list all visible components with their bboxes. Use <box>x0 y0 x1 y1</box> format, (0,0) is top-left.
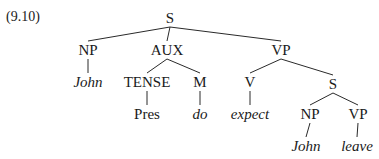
tree-edges <box>0 0 379 159</box>
tree-node-vp-1: VP <box>271 43 290 58</box>
tree-node-np-1: NP <box>78 43 97 58</box>
tree-node-v: V <box>245 75 256 90</box>
tree-node-expect: expect <box>231 107 269 122</box>
tree-node-john-2: John <box>291 139 320 154</box>
tree-node-s-embedded: S <box>329 77 337 92</box>
tree-node-pres: Pres <box>134 107 160 122</box>
edge-vp-1-to-v <box>250 59 281 73</box>
tree-node-vp-2: VP <box>348 107 367 122</box>
edge-aux-to-m <box>167 59 200 73</box>
edge-s-root-to-np-1 <box>88 27 170 41</box>
tree-node-aux: AUX <box>151 43 184 58</box>
tree-node-john-1: John <box>73 75 102 90</box>
edge-np-2-to-john-2 <box>306 123 310 137</box>
edge-aux-to-tense <box>147 59 167 73</box>
tree-node-tense: TENSE <box>124 75 171 90</box>
tree-node-do: do <box>193 107 208 122</box>
edge-s-root-to-aux <box>167 27 170 41</box>
tree-node-m: M <box>193 75 206 90</box>
syntax-tree-diagram: (9.10) SNPAUXVPJohnTENSEMVSPresdoexpectN… <box>0 0 379 159</box>
edge-vp-2-to-leave <box>357 123 358 137</box>
tree-node-leave: leave <box>341 139 373 154</box>
edge-s-embedded-to-np-2 <box>310 93 333 105</box>
tree-node-s-root: S <box>166 11 174 26</box>
edge-s-root-to-vp-1 <box>170 27 281 41</box>
tree-node-np-2: NP <box>300 107 319 122</box>
edge-s-embedded-to-vp-2 <box>333 93 358 105</box>
edge-vp-1-to-s-embedded <box>281 59 333 75</box>
